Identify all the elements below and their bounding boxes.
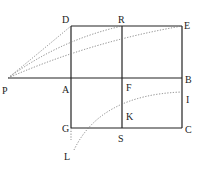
label-P: P	[2, 85, 8, 96]
label-F: F	[126, 82, 132, 93]
label-S: S	[118, 133, 124, 144]
label-E: E	[184, 20, 190, 31]
label-I: I	[186, 94, 189, 105]
label-R: R	[118, 14, 125, 25]
solid-lines	[8, 26, 182, 128]
label-B: B	[185, 74, 192, 85]
label-K: K	[126, 111, 134, 122]
curve-PD	[8, 26, 71, 78]
label-D: D	[62, 14, 69, 25]
label-G: G	[62, 123, 69, 134]
point-labels: P D R E A F B G S C I K L	[2, 14, 192, 162]
geometry-diagram: P D R E A F B G S C I K L	[0, 0, 204, 172]
label-C: C	[185, 124, 192, 135]
dotted-curves	[8, 26, 182, 150]
label-A: A	[62, 84, 70, 95]
curve-PR	[8, 26, 122, 78]
label-L: L	[64, 151, 70, 162]
